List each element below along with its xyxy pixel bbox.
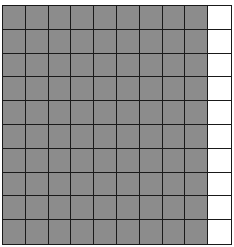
shaded-cell — [94, 101, 117, 125]
shaded-cell — [185, 220, 208, 244]
empty-cell — [208, 125, 231, 149]
shaded-cell — [140, 173, 163, 197]
shaded-cell — [163, 101, 186, 125]
shaded-cell — [49, 101, 72, 125]
shaded-cell — [26, 125, 49, 149]
shaded-cell — [140, 54, 163, 78]
shaded-cell — [49, 54, 72, 78]
shaded-cell — [163, 77, 186, 101]
shaded-cell — [3, 54, 26, 78]
shaded-cell — [117, 54, 140, 78]
shaded-cell — [117, 196, 140, 220]
shaded-cell — [26, 149, 49, 173]
shaded-cell — [3, 77, 26, 101]
shaded-cell — [163, 173, 186, 197]
shaded-cell — [117, 173, 140, 197]
hundred-grid — [2, 5, 232, 245]
shaded-cell — [94, 125, 117, 149]
shaded-cell — [71, 101, 94, 125]
shaded-cell — [94, 30, 117, 54]
shaded-cell — [140, 125, 163, 149]
shaded-cell — [3, 149, 26, 173]
shaded-cell — [163, 54, 186, 78]
empty-cell — [208, 30, 231, 54]
shaded-cell — [185, 6, 208, 30]
shaded-cell — [71, 30, 94, 54]
shaded-cell — [163, 30, 186, 54]
shaded-cell — [117, 125, 140, 149]
shaded-cell — [71, 149, 94, 173]
shaded-cell — [26, 196, 49, 220]
shaded-cell — [185, 173, 208, 197]
shaded-cell — [71, 54, 94, 78]
shaded-cell — [185, 30, 208, 54]
shaded-cell — [117, 220, 140, 244]
shaded-cell — [140, 149, 163, 173]
empty-cell — [208, 6, 231, 30]
shaded-cell — [71, 77, 94, 101]
shaded-cell — [117, 30, 140, 54]
shaded-cell — [140, 30, 163, 54]
shaded-cell — [49, 6, 72, 30]
shaded-cell — [3, 6, 26, 30]
shaded-cell — [26, 220, 49, 244]
shaded-cell — [71, 196, 94, 220]
empty-cell — [208, 77, 231, 101]
shaded-cell — [163, 125, 186, 149]
empty-cell — [208, 196, 231, 220]
shaded-cell — [94, 173, 117, 197]
shaded-cell — [71, 220, 94, 244]
shaded-cell — [71, 125, 94, 149]
shaded-cell — [26, 54, 49, 78]
shaded-cell — [49, 125, 72, 149]
empty-cell — [208, 149, 231, 173]
shaded-cell — [94, 77, 117, 101]
shaded-cell — [3, 173, 26, 197]
shaded-cell — [94, 149, 117, 173]
shaded-cell — [163, 149, 186, 173]
shaded-cell — [94, 6, 117, 30]
shaded-cell — [94, 196, 117, 220]
shaded-cell — [71, 173, 94, 197]
shaded-cell — [3, 125, 26, 149]
shaded-cell — [94, 220, 117, 244]
shaded-cell — [185, 196, 208, 220]
shaded-cell — [49, 149, 72, 173]
shaded-cell — [140, 101, 163, 125]
shaded-cell — [3, 220, 26, 244]
shaded-cell — [185, 149, 208, 173]
shaded-cell — [117, 149, 140, 173]
shaded-cell — [185, 77, 208, 101]
empty-cell — [208, 101, 231, 125]
empty-cell — [208, 220, 231, 244]
shaded-cell — [26, 173, 49, 197]
shaded-cell — [71, 6, 94, 30]
shaded-cell — [3, 101, 26, 125]
shaded-cell — [163, 196, 186, 220]
shaded-cell — [117, 77, 140, 101]
shaded-cell — [49, 196, 72, 220]
shaded-cell — [185, 101, 208, 125]
shaded-cell — [185, 125, 208, 149]
shaded-cell — [49, 220, 72, 244]
shaded-cell — [3, 196, 26, 220]
shaded-cell — [185, 54, 208, 78]
shaded-cell — [26, 30, 49, 54]
shaded-cell — [117, 101, 140, 125]
shaded-cell — [163, 6, 186, 30]
shaded-cell — [140, 6, 163, 30]
shaded-cell — [3, 30, 26, 54]
shaded-cell — [163, 220, 186, 244]
shaded-cell — [140, 196, 163, 220]
shaded-cell — [49, 30, 72, 54]
shaded-cell — [26, 77, 49, 101]
shaded-cell — [117, 6, 140, 30]
shaded-cell — [140, 220, 163, 244]
shaded-cell — [26, 101, 49, 125]
shaded-cell — [94, 54, 117, 78]
shaded-cell — [49, 77, 72, 101]
shaded-cell — [140, 77, 163, 101]
empty-cell — [208, 173, 231, 197]
shaded-cell — [49, 173, 72, 197]
empty-cell — [208, 54, 231, 78]
